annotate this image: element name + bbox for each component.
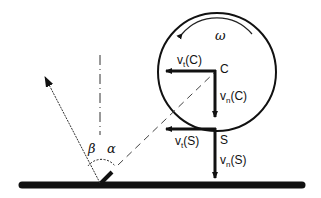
contact-label: S	[220, 133, 228, 147]
vt-c-label: vt(C)	[177, 53, 202, 69]
diagram-canvas: ω β α C S vt(C) vn(C) vt(S) vn(S)	[0, 0, 321, 198]
omega-label: ω	[215, 28, 226, 43]
vn-s-label: vn(S)	[220, 153, 246, 169]
reflected-ray	[45, 77, 100, 183]
alpha-label: α	[107, 141, 116, 156]
impact-marker	[101, 172, 112, 183]
angle-arc	[88, 159, 115, 166]
center-label: C	[220, 62, 229, 76]
vt-s-label: vt(S)	[175, 134, 199, 150]
vn-c-label: vn(C)	[220, 89, 247, 105]
beta-label: β	[87, 141, 96, 156]
incidence-line	[118, 72, 215, 165]
